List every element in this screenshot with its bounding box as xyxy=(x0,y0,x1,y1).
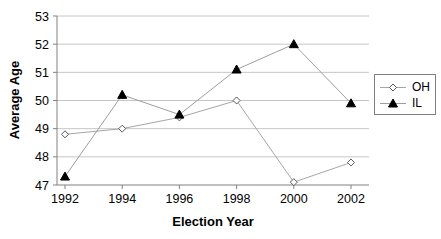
legend-label-oh: OH xyxy=(412,81,430,93)
legend-sample-marker-oh xyxy=(379,82,407,93)
marker-oh-1998 xyxy=(233,97,240,104)
x-tick-label: 1994 xyxy=(108,192,136,206)
marker-oh-1994 xyxy=(119,125,126,132)
chart-plot: 47484950515253199219941996199820002002 xyxy=(0,0,441,239)
legend: OH IL xyxy=(374,74,436,115)
y-tick-label: 52 xyxy=(35,38,49,52)
y-tick-label: 48 xyxy=(35,150,49,164)
marker-oh-1992 xyxy=(62,131,69,138)
legend-label-il: IL xyxy=(412,97,422,109)
legend-item-oh: OH xyxy=(375,79,435,95)
marker-il-1992 xyxy=(61,172,70,180)
x-axis-title: Election Year xyxy=(172,214,253,229)
marker-il-1994 xyxy=(118,90,127,98)
legend-marker-oh xyxy=(390,84,397,91)
y-tick-label: 49 xyxy=(35,122,49,136)
y-tick-label: 50 xyxy=(35,94,49,108)
x-tick-label: 1992 xyxy=(51,192,79,206)
x-tick-label: 2000 xyxy=(280,192,308,206)
chart-figure: 47484950515253199219941996199820002002 A… xyxy=(0,0,441,239)
marker-il-1996 xyxy=(175,110,184,118)
x-tick-label: 1998 xyxy=(223,192,251,206)
legend-item-il: IL xyxy=(375,95,435,111)
y-tick-label: 51 xyxy=(35,66,49,80)
y-tick-label: 47 xyxy=(35,179,49,193)
x-tick-label: 1996 xyxy=(165,192,193,206)
marker-oh-2002 xyxy=(348,159,355,166)
legend-sample-marker-il xyxy=(379,98,407,109)
x-tick-label: 2002 xyxy=(337,192,365,206)
series-line-oh xyxy=(65,101,351,183)
y-tick-label: 53 xyxy=(35,10,49,24)
y-axis-title: Average Age xyxy=(7,61,22,140)
marker-il-1998 xyxy=(232,65,241,73)
